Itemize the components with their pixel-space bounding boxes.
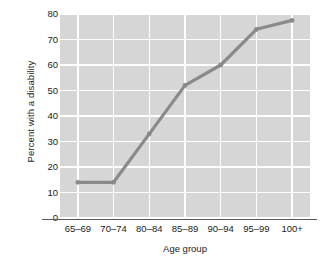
y-tick-label: 30 (34, 137, 58, 147)
line-chart: Percent with a disability 01020304050607… (0, 0, 322, 264)
data-series-line (60, 14, 310, 218)
y-tick-label: 20 (34, 162, 58, 172)
data-point-marker (218, 63, 223, 68)
x-axis-line (42, 219, 317, 220)
y-tick-label: 50 (34, 86, 58, 96)
x-tick-label: 100+ (262, 223, 322, 234)
data-point-marker (111, 180, 116, 185)
y-tick-label: 80 (34, 9, 58, 19)
data-point-marker (254, 27, 259, 32)
y-tick-label: 10 (34, 188, 58, 198)
y-axis-tick-labels: 01020304050607080 (34, 14, 58, 218)
x-axis-tick-labels: 65–6970–7480–8485–8990–9495–99100+ (60, 223, 310, 237)
y-tick-label: 0 (34, 213, 58, 223)
x-axis-title: Age group (60, 243, 310, 254)
data-point-marker (75, 180, 80, 185)
y-tick-label: 40 (34, 111, 58, 121)
y-tick-label: 60 (34, 60, 58, 70)
data-point-marker (183, 83, 188, 88)
data-point-marker (290, 18, 295, 23)
plot-area (60, 14, 310, 218)
series-polyline (78, 20, 292, 182)
data-point-marker (147, 131, 152, 136)
y-tick-label: 70 (34, 35, 58, 45)
